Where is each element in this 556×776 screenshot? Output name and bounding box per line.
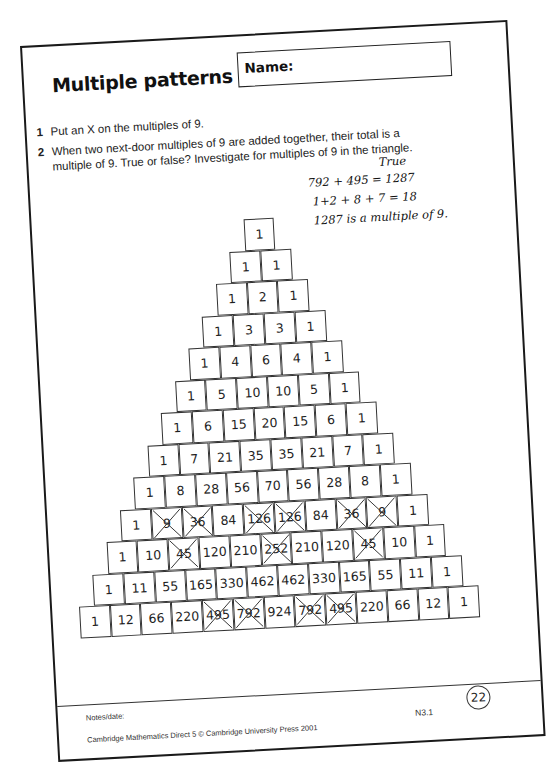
triangle-cell[interactable]: 3	[264, 311, 296, 344]
triangle-cell[interactable]: 9	[151, 507, 183, 540]
triangle-cell[interactable]: 126	[274, 500, 306, 533]
triangle-cell[interactable]: 1	[260, 248, 292, 281]
triangle-cell[interactable]: 66	[386, 589, 418, 622]
triangle-cell[interactable]: 20	[253, 406, 285, 439]
triangle-cell[interactable]: 66	[140, 602, 172, 635]
triangle-cell[interactable]: 84	[212, 503, 244, 536]
triangle-cell[interactable]: 462	[246, 565, 278, 598]
triangle-cell[interactable]: 70	[257, 469, 289, 502]
triangle-cell[interactable]: 10	[383, 526, 415, 559]
cell-value: 84	[312, 507, 329, 523]
triangle-cell[interactable]: 120	[198, 536, 230, 569]
triangle-cell[interactable]: 1	[380, 463, 412, 496]
triangle-cell[interactable]: 11	[400, 556, 432, 589]
triangle-cell[interactable]: 495	[325, 592, 357, 625]
triangle-cell[interactable]: 1	[311, 340, 343, 373]
triangle-cell[interactable]: 2	[247, 281, 279, 314]
triangle-cell[interactable]: 1	[188, 347, 220, 380]
triangle-cell[interactable]: 1	[216, 282, 248, 315]
triangle-cell[interactable]: 330	[308, 561, 340, 594]
triangle-cell[interactable]: 56	[287, 468, 319, 501]
triangle-cell[interactable]: 126	[243, 502, 275, 535]
triangle-cell[interactable]: 1	[229, 250, 261, 283]
triangle-cell[interactable]: 1	[79, 605, 111, 638]
triangle-cell[interactable]: 1	[294, 310, 326, 343]
triangle-cell[interactable]: 9	[366, 495, 398, 528]
triangle-cell[interactable]: 84	[304, 498, 336, 531]
triangle-cell[interactable]: 35	[240, 439, 272, 472]
triangle-cell[interactable]: 330	[216, 566, 248, 599]
triangle-cell[interactable]: 7	[332, 434, 364, 467]
triangle-cell[interactable]: 36	[181, 505, 213, 538]
triangle-cell[interactable]: 1	[202, 315, 234, 348]
name-field[interactable]: Name:	[237, 41, 453, 87]
cell-value: 10	[275, 383, 292, 399]
triangle-cell[interactable]: 10	[137, 539, 169, 572]
triangle-cell[interactable]: 4	[281, 342, 313, 375]
triangle-cell[interactable]: 1	[397, 493, 429, 526]
triangle-cell[interactable]: 11	[123, 571, 155, 604]
triangle-cell[interactable]: 1	[161, 411, 193, 444]
triangle-cell[interactable]: 1	[134, 476, 166, 509]
triangle-cell[interactable]: 8	[349, 464, 381, 497]
triangle-cell[interactable]: 120	[321, 529, 353, 562]
triangle-cell[interactable]: 8	[164, 474, 196, 507]
triangle-cell[interactable]: 1	[120, 508, 152, 541]
triangle-cell[interactable]: 1	[414, 524, 446, 557]
triangle-cell[interactable]: 55	[154, 569, 186, 602]
triangle-cell[interactable]: 5	[205, 377, 237, 410]
triangle-cell[interactable]: 1	[346, 401, 378, 434]
triangle-cell[interactable]: 28	[195, 473, 227, 506]
cell-value: 10	[244, 384, 261, 400]
triangle-cell[interactable]: 10	[236, 376, 268, 409]
triangle-cell[interactable]: 6	[315, 403, 347, 436]
triangle-cell[interactable]: 220	[171, 600, 203, 633]
triangle-cell[interactable]: 495	[202, 598, 234, 631]
triangle-cell[interactable]: 56	[226, 471, 258, 504]
triangle-cell[interactable]: 7	[178, 442, 210, 475]
triangle-cell[interactable]: 15	[223, 408, 255, 441]
triangle-cell[interactable]: 6	[192, 410, 224, 443]
triangle-cell[interactable]: 6	[250, 344, 282, 377]
cell-value: 6	[327, 412, 336, 427]
triangle-cell[interactable]: 12	[417, 587, 449, 620]
triangle-cell[interactable]: 462	[277, 563, 309, 596]
triangle-cell[interactable]: 252	[260, 532, 292, 565]
triangle-cell[interactable]: 12	[110, 603, 142, 636]
triangle-cell[interactable]: 36	[335, 497, 367, 530]
triangle-cell[interactable]: 45	[168, 537, 200, 570]
triangle-cell[interactable]: 165	[339, 560, 371, 593]
triangle-cell[interactable]: 1	[363, 432, 395, 465]
triangle-cell[interactable]: 792	[294, 594, 326, 627]
triangle-cell[interactable]: 28	[318, 466, 350, 499]
cell-value: 1	[214, 323, 223, 338]
cell-value: 120	[325, 537, 350, 553]
triangle-cell[interactable]: 35	[270, 437, 302, 470]
triangle-cell[interactable]: 3	[233, 313, 265, 346]
triangle-cell[interactable]: 45	[352, 527, 384, 560]
triangle-cell[interactable]: 1	[328, 371, 360, 404]
triangle-cell[interactable]: 165	[185, 568, 217, 601]
triangle-cell[interactable]: 1	[106, 540, 138, 573]
triangle-cell[interactable]: 210	[291, 531, 323, 564]
triangle-cell[interactable]: 1	[147, 444, 179, 477]
triangle-cell[interactable]: 792	[233, 597, 265, 630]
cell-value: 1	[145, 485, 154, 500]
cell-value: 6	[262, 352, 271, 367]
triangle-cell[interactable]: 21	[301, 435, 333, 468]
triangle-cell[interactable]: 1	[243, 218, 275, 251]
triangle-cell[interactable]: 210	[229, 534, 261, 567]
triangle-cell[interactable]: 4	[219, 345, 251, 378]
triangle-cell[interactable]: 5	[298, 372, 330, 405]
triangle-cell[interactable]: 1	[277, 279, 309, 312]
triangle-cell[interactable]: 21	[209, 440, 241, 473]
triangle-cell[interactable]: 220	[356, 590, 388, 623]
triangle-cell[interactable]: 55	[369, 558, 401, 591]
triangle-cell[interactable]: 1	[448, 585, 480, 618]
triangle-cell[interactable]: 1	[175, 379, 207, 412]
triangle-cell[interactable]: 1	[92, 573, 124, 606]
triangle-cell[interactable]: 1	[431, 555, 463, 588]
triangle-cell[interactable]: 15	[284, 405, 316, 438]
triangle-cell[interactable]: 924	[263, 595, 295, 628]
triangle-cell[interactable]: 10	[267, 374, 299, 407]
